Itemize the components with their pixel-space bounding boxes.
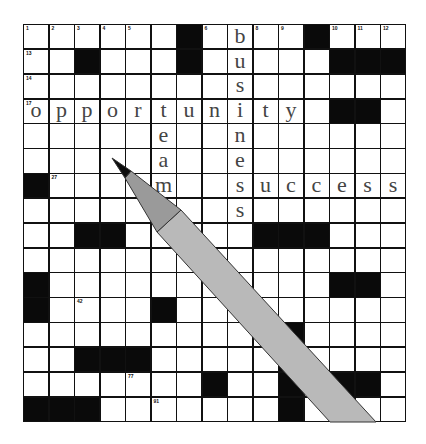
grid-cell[interactable] xyxy=(152,75,176,98)
grid-cell[interactable] xyxy=(330,249,354,272)
grid-cell[interactable] xyxy=(305,100,329,123)
grid-cell[interactable] xyxy=(254,323,278,346)
grid-cell[interactable]: 91 xyxy=(152,398,176,421)
grid-cell[interactable]: 14 xyxy=(24,75,48,98)
grid-cell[interactable] xyxy=(177,199,201,222)
grid-cell[interactable] xyxy=(254,398,278,421)
grid-cell[interactable] xyxy=(305,249,329,272)
grid-cell[interactable] xyxy=(126,199,150,222)
grid-cell[interactable]: e xyxy=(228,149,252,172)
grid-cell[interactable] xyxy=(24,149,48,172)
grid-cell[interactable] xyxy=(101,174,125,197)
grid-cell[interactable] xyxy=(254,124,278,147)
grid-cell[interactable] xyxy=(50,273,74,296)
grid-cell[interactable] xyxy=(203,199,227,222)
grid-cell[interactable] xyxy=(330,224,354,247)
grid-cell[interactable] xyxy=(305,298,329,321)
grid-cell[interactable] xyxy=(126,298,150,321)
grid-cell[interactable] xyxy=(152,323,176,346)
grid-cell[interactable] xyxy=(50,124,74,147)
grid-cell[interactable] xyxy=(75,174,99,197)
grid-cell[interactable] xyxy=(177,298,201,321)
grid-cell[interactable] xyxy=(305,273,329,296)
grid-cell[interactable]: 2 xyxy=(50,25,74,48)
grid-cell[interactable] xyxy=(50,249,74,272)
grid-cell[interactable] xyxy=(330,75,354,98)
grid-cell[interactable] xyxy=(50,149,74,172)
grid-cell[interactable]: 13 xyxy=(24,50,48,73)
grid-cell[interactable] xyxy=(279,249,303,272)
grid-cell[interactable] xyxy=(228,348,252,371)
grid-cell[interactable] xyxy=(228,373,252,396)
grid-cell[interactable]: t xyxy=(152,100,176,123)
grid-cell[interactable] xyxy=(75,323,99,346)
grid-cell[interactable] xyxy=(152,249,176,272)
grid-cell[interactable] xyxy=(305,199,329,222)
grid-cell[interactable] xyxy=(228,249,252,272)
grid-cell[interactable] xyxy=(203,323,227,346)
grid-cell[interactable] xyxy=(126,249,150,272)
grid-cell[interactable] xyxy=(50,75,74,98)
grid-cell[interactable] xyxy=(50,224,74,247)
grid-cell[interactable]: e xyxy=(152,124,176,147)
grid-cell[interactable]: n xyxy=(228,124,252,147)
grid-cell[interactable] xyxy=(75,249,99,272)
grid-cell[interactable] xyxy=(24,249,48,272)
grid-cell[interactable] xyxy=(101,199,125,222)
grid-cell[interactable]: p xyxy=(75,100,99,123)
grid-cell[interactable] xyxy=(152,50,176,73)
grid-cell[interactable] xyxy=(126,174,150,197)
grid-cell[interactable] xyxy=(203,224,227,247)
grid-cell[interactable] xyxy=(126,75,150,98)
grid-cell[interactable] xyxy=(381,149,405,172)
grid-cell[interactable] xyxy=(101,373,125,396)
grid-cell[interactable]: a xyxy=(152,149,176,172)
grid-cell[interactable] xyxy=(381,323,405,346)
grid-cell[interactable] xyxy=(177,373,201,396)
grid-cell[interactable] xyxy=(381,100,405,123)
grid-cell[interactable] xyxy=(177,124,201,147)
grid-cell[interactable] xyxy=(101,75,125,98)
grid-cell[interactable] xyxy=(381,273,405,296)
grid-cell[interactable] xyxy=(356,124,380,147)
grid-cell[interactable] xyxy=(24,348,48,371)
grid-cell[interactable] xyxy=(254,199,278,222)
grid-cell[interactable] xyxy=(279,273,303,296)
grid-cell[interactable]: 12 xyxy=(381,25,405,48)
grid-cell[interactable] xyxy=(356,323,380,346)
grid-cell[interactable] xyxy=(356,149,380,172)
grid-cell[interactable] xyxy=(305,398,329,421)
grid-cell[interactable] xyxy=(305,348,329,371)
grid-cell[interactable] xyxy=(381,298,405,321)
grid-cell[interactable] xyxy=(126,398,150,421)
grid-cell[interactable] xyxy=(203,348,227,371)
grid-cell[interactable] xyxy=(24,323,48,346)
grid-cell[interactable] xyxy=(203,124,227,147)
grid-cell[interactable] xyxy=(75,149,99,172)
grid-cell[interactable] xyxy=(203,149,227,172)
grid-cell[interactable] xyxy=(101,398,125,421)
grid-cell[interactable] xyxy=(305,373,329,396)
grid-cell[interactable] xyxy=(330,398,354,421)
grid-cell[interactable] xyxy=(203,174,227,197)
grid-cell[interactable] xyxy=(356,398,380,421)
grid-cell[interactable] xyxy=(254,373,278,396)
grid-cell[interactable] xyxy=(228,224,252,247)
grid-cell[interactable] xyxy=(50,373,74,396)
grid-cell[interactable]: m xyxy=(152,174,176,197)
grid-cell[interactable] xyxy=(50,50,74,73)
grid-cell[interactable] xyxy=(177,149,201,172)
grid-cell[interactable] xyxy=(381,124,405,147)
grid-cell[interactable] xyxy=(75,124,99,147)
grid-cell[interactable] xyxy=(177,224,201,247)
grid-cell[interactable] xyxy=(126,273,150,296)
grid-cell[interactable]: y xyxy=(279,100,303,123)
grid-cell[interactable]: 8 xyxy=(254,25,278,48)
grid-cell[interactable] xyxy=(75,273,99,296)
grid-cell[interactable] xyxy=(177,348,201,371)
grid-cell[interactable] xyxy=(101,149,125,172)
grid-cell[interactable] xyxy=(254,249,278,272)
grid-cell[interactable] xyxy=(381,249,405,272)
grid-cell[interactable] xyxy=(24,199,48,222)
grid-cell[interactable] xyxy=(330,348,354,371)
